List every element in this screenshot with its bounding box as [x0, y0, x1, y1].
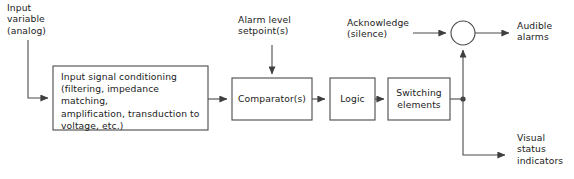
label-visual-status-indicators: Visual status indicators: [517, 132, 563, 166]
block-label-input-signal-conditioning: Input signal conditioning (filtering, im…: [61, 71, 206, 132]
connector-input-variable: [28, 40, 48, 98]
summing-junction-node: [451, 21, 475, 45]
label-alarm-setpoint: Alarm level setpoint(s): [238, 14, 291, 37]
alarm-system-block-diagram: Input variable (analog) Alarm level setp…: [0, 0, 574, 179]
label-acknowledge: Acknowledge (silence): [347, 17, 409, 40]
label-audible-alarms: Audible alarms: [517, 20, 552, 43]
connector-split-to-visual-status: [463, 99, 505, 155]
label-input-variable: Input variable (analog): [7, 2, 46, 36]
block-label-comparators: Comparator(s): [232, 78, 312, 120]
block-label-logic: Logic: [330, 78, 375, 120]
block-label-switching-elements: Switching elements: [388, 78, 450, 120]
